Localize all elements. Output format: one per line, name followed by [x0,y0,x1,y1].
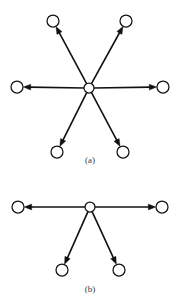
panel-a-edge-to-right [93,87,151,88]
node-a-left [11,81,23,93]
panel-a-caption: (a) [85,155,95,165]
panel-b-caption: (b) [85,284,96,294]
panel-b-hub-node [85,202,95,212]
panel-b-edges [24,204,156,264]
panel-b-edge-to-down-left [67,211,88,259]
panel-a-arrowhead-up-left [56,26,62,34]
panel-a: (a) [11,15,169,165]
panel-a-arrowhead-up-right [117,26,123,34]
panel-b-edge-to-down-right [92,211,114,259]
panel-a-edge-to-up-left [59,31,87,84]
panel-a-arrowhead-down-left [60,138,66,146]
node-a-bottom-left [51,146,63,158]
panel-a-edge-to-down-left [62,92,87,142]
panel-b-arrowhead-down-right [111,256,117,264]
panel-a-hub-node [84,83,94,93]
star-graph-figure: (a) (b) [0,0,180,307]
panel-a-edge-to-up-right [91,31,120,84]
panel-b: (b) [12,201,168,294]
panel-b-arrowhead-right [148,204,156,210]
panel-a-edge-to-down-right [91,92,117,142]
panel-b-arrowhead-left [24,204,32,210]
node-a-top-right [120,15,132,27]
panel-b-arrowhead-down-left [65,256,71,264]
figure-container: (a) (b) [0,0,180,307]
node-b-left [12,201,24,213]
panel-a-edge-to-left [29,87,85,88]
node-b-right [156,201,168,213]
panel-a-arrowhead-right [149,84,157,90]
node-a-right [157,81,169,93]
panel-a-arrowhead-left [23,84,31,90]
node-b-bottom-right [113,264,125,276]
node-b-bottom-left [56,264,68,276]
panel-b-nodes [12,201,168,276]
node-a-top-left [47,15,59,27]
node-a-bottom-right [117,146,129,158]
panel-a-arrowhead-down-right [114,139,120,147]
